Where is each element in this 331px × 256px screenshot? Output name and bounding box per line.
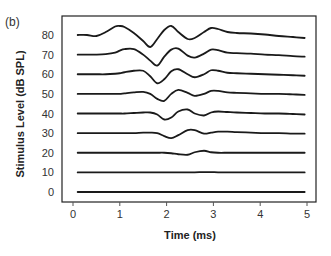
trace-80-db — [78, 26, 305, 47]
y-tick-label: 80 — [42, 29, 54, 41]
x-tick-label: 3 — [210, 208, 216, 220]
y-tick-labels: 01020304050607080 — [42, 29, 54, 198]
trace-20-db — [78, 151, 305, 155]
traces — [78, 26, 305, 192]
trace-40-db — [78, 109, 305, 119]
trace-60-db — [78, 69, 305, 83]
y-tick-label: 10 — [42, 166, 54, 178]
x-tick-label: 1 — [117, 208, 123, 220]
y-tick-label: 20 — [42, 147, 54, 159]
y-axis-title: Stimulus Level (dB SPL) — [14, 50, 26, 177]
y-tick-label: 40 — [42, 108, 54, 120]
x-axis-title: Time (ms) — [164, 229, 216, 241]
x-ticks: 012345 — [70, 202, 310, 220]
abr-waveform-chart: (b) 01020304050607080 012345 Time (ms) S… — [0, 0, 331, 256]
y-tick-label: 50 — [42, 88, 54, 100]
x-tick-label: 4 — [257, 208, 263, 220]
trace-70-db — [78, 48, 305, 66]
y-tick-label: 30 — [42, 127, 54, 139]
panel-label: (b) — [5, 15, 20, 29]
trace-30-db — [78, 130, 305, 139]
y-tick-label: 70 — [42, 49, 54, 61]
x-tick-label: 0 — [70, 208, 76, 220]
x-tick-label: 5 — [304, 208, 310, 220]
x-tick-label: 2 — [164, 208, 170, 220]
y-tick-label: 60 — [42, 68, 54, 80]
trace-50-db — [78, 90, 305, 101]
y-tick-label: 0 — [48, 186, 54, 198]
